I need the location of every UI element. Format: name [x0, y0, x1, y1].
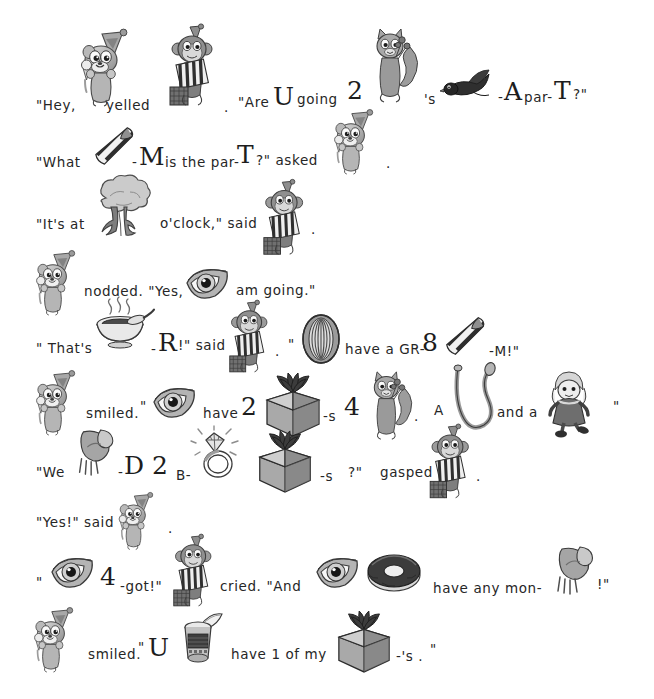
chipmunk-party-hat-icecream-icon	[30, 603, 82, 679]
rebus-story-page: "Hey, yelled ."AreUgoing2	[0, 0, 654, 699]
story-text: have 1 of my	[231, 648, 327, 662]
rebus-letter: U	[148, 633, 169, 662]
story-line: smiled."U have 1 of my -'s ."	[0, 0, 654, 699]
story-text: "	[430, 643, 437, 657]
gift-box-bow-icon	[335, 608, 393, 674]
story-text: -'s .	[396, 650, 423, 664]
tin-can-open-icon	[178, 610, 226, 666]
story-text: smiled.	[88, 648, 141, 662]
story-text: "	[138, 641, 145, 655]
